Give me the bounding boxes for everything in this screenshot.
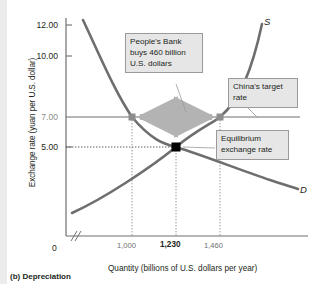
y-tick-label-12: 12.00: [16, 20, 58, 30]
y-tick-label-5: 5.00: [16, 142, 58, 152]
demand-at-target-marker: [129, 114, 136, 121]
y-axis-title: Exchange rate (yuan per U.S. dollar): [28, 38, 37, 208]
y-tick-label-10: 10.00: [16, 51, 58, 61]
demand-curve-label: D: [300, 184, 307, 195]
figure-caption: (b) Depreciation: [10, 272, 130, 282]
equilibrium-leader-line: [183, 147, 215, 148]
x-axis-title: Quantity (billions of U.S. dollars per y…: [108, 264, 257, 273]
y-tick-label-7: 7.00: [16, 112, 58, 122]
equilibrium-marker: [172, 143, 181, 152]
peoples-bank-callout: People's Bank buys 460 billion U.S. doll…: [125, 33, 203, 73]
origin-label: 0: [52, 243, 57, 253]
equilibrium-callout: Equilibrium exchange rate: [216, 130, 289, 160]
peoples-bank-leader-line: [176, 84, 186, 112]
figure-panel: Exchange rate (yuan per U.S. dollar) Qua…: [0, 0, 316, 284]
china-target-rate-callout: China's target rate: [228, 78, 298, 108]
x-tick-label-1230: 1,230: [160, 240, 181, 249]
x-tick-label-1000: 1,000: [117, 241, 136, 250]
supply-curve-label: S: [264, 16, 270, 27]
supply-at-target-marker: [217, 114, 224, 121]
x-tick-label-1460: 1,460: [204, 241, 223, 250]
